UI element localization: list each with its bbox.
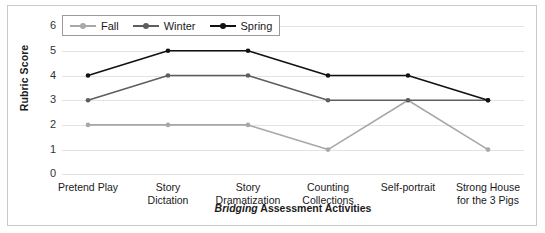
data-point [326,147,331,152]
series-fall [86,98,491,152]
legend-label: Spring [241,20,273,32]
legend-swatch-icon [70,21,96,31]
data-point [86,98,91,103]
data-point [86,73,91,78]
data-point [246,73,251,78]
x-tick-label: Pretend Play [42,181,134,194]
legend-label: Fall [101,20,119,32]
x-tick-label-line: Pretend Play [42,181,134,194]
x-axis-title-rest: Assessment Activities [258,202,372,214]
x-tick-label-line: Story [122,181,214,194]
legend-swatch-icon [133,21,159,31]
plot-area: 6543210 Rubric Score Pretend PlayStoryDi… [0,0,545,233]
data-point [326,98,331,103]
legend: FallWinterSpring [62,15,280,36]
series-line [88,100,488,149]
chart-figure: 6543210 Rubric Score Pretend PlayStoryDi… [0,0,545,233]
data-point [246,123,251,128]
legend-item-fall[interactable]: Fall [70,20,119,32]
series-winter [86,73,491,102]
x-tick-label: Self-portrait [362,181,454,194]
x-axis-title-emphasis: Bridging [215,202,258,214]
legend-item-spring[interactable]: Spring [210,20,273,32]
data-point [326,73,331,78]
legend-swatch-icon [210,21,236,31]
x-tick-label-line: Self-portrait [362,181,454,194]
data-point [406,73,411,78]
x-tick-label-line: Strong House [442,181,534,194]
x-tick-label-line: Counting [282,181,374,194]
series-line [88,76,488,101]
data-point [166,73,171,78]
legend-label: Winter [164,20,196,32]
data-point [406,98,411,103]
x-axis-title: Bridging Assessment Activities [62,202,524,214]
data-point [486,147,491,152]
data-point [166,49,171,54]
data-point [486,98,491,103]
data-point [86,123,91,128]
series-spring [86,49,491,103]
data-point [166,123,171,128]
data-point [246,49,251,54]
series-line [88,51,488,100]
x-tick-label-line: Story [202,181,294,194]
legend-item-winter[interactable]: Winter [133,20,196,32]
